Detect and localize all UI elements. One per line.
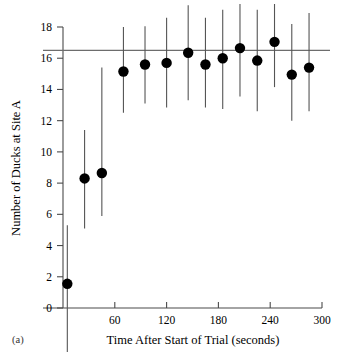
data-point	[287, 69, 297, 79]
data-point	[79, 173, 89, 183]
panel-label: (a)	[12, 334, 24, 346]
x-tick-label: 120	[158, 314, 176, 326]
data-point	[200, 59, 210, 69]
y-tick-label: 16	[41, 52, 53, 64]
x-tick-label: 300	[313, 314, 331, 326]
data-point	[97, 168, 107, 178]
data-point	[304, 62, 314, 72]
x-axis-title: Time After Start of Trial (seconds)	[107, 333, 280, 347]
data-point	[62, 279, 72, 289]
y-tick-label: 8	[46, 177, 52, 189]
data-point	[140, 59, 150, 69]
data-point	[183, 48, 193, 58]
data-point	[269, 37, 279, 47]
y-tick-label: 0	[46, 302, 52, 314]
y-axis-ticks: 024681012141618	[41, 21, 64, 314]
data-point	[252, 55, 262, 65]
x-tick-label: 240	[262, 314, 280, 326]
y-tick-label: 10	[41, 146, 53, 158]
data-point	[218, 53, 228, 63]
data-point	[161, 58, 171, 68]
x-tick-label: 60	[109, 314, 121, 326]
duck-count-time-series-chart: 024681012141618 60120180240300 Number of…	[0, 0, 347, 356]
data-point	[118, 66, 128, 76]
figure-panel: 024681012141618 60120180240300 Number of…	[0, 0, 347, 356]
y-axis-title: Number of Ducks at Site A	[9, 100, 23, 236]
data-point	[235, 43, 245, 53]
y-tick-label: 6	[46, 208, 52, 220]
y-tick-label: 14	[41, 83, 53, 95]
x-axis-ticks: 60120180240300	[109, 302, 331, 326]
y-tick-label: 2	[46, 271, 52, 283]
x-tick-label: 180	[210, 314, 228, 326]
y-tick-label: 4	[46, 240, 52, 252]
y-tick-label: 12	[41, 115, 53, 127]
y-tick-label: 18	[41, 21, 53, 33]
